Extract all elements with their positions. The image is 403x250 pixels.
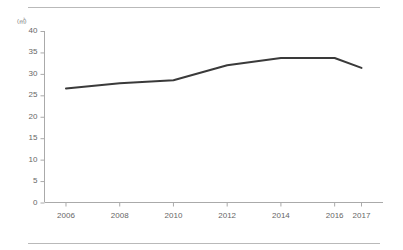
y-tick-label: 10 [16, 156, 38, 164]
x-tick-label: 2006 [46, 212, 86, 220]
y-tick-label: 40 [16, 27, 38, 35]
x-tick-label: 2012 [207, 212, 247, 220]
x-tick-label: 2014 [261, 212, 301, 220]
y-axis-tick-marks [41, 32, 45, 204]
y-tick-label: 25 [16, 91, 38, 99]
y-tick-label: 35 [16, 48, 38, 56]
y-tick-label: 15 [16, 134, 38, 142]
y-tick-label: 0 [16, 199, 38, 207]
x-tick-label: 2010 [153, 212, 193, 220]
x-axis-tick-marks [66, 203, 362, 207]
y-tick-label: 20 [16, 113, 38, 121]
y-tick-label: 30 [16, 70, 38, 78]
x-tick-label: 2017 [342, 212, 382, 220]
x-tick-label: 2008 [100, 212, 140, 220]
y-tick-label: 5 [16, 177, 38, 185]
chart-figure: (㎡) 0510152025303540 2006200820102012201… [0, 0, 403, 250]
data-series-line [66, 58, 362, 88]
